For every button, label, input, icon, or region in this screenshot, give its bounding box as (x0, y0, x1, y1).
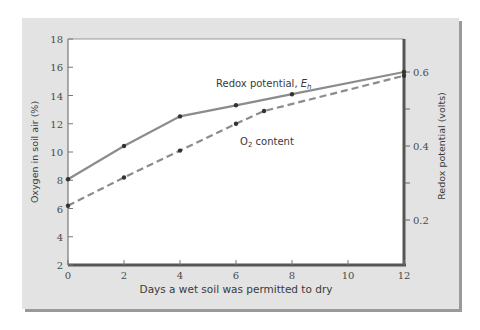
data-point (178, 148, 182, 152)
data-point (262, 109, 266, 113)
y-axis-right-title: Redox potential (volts) (436, 92, 447, 200)
y-tick-label: 18 (50, 34, 63, 45)
data-point (122, 144, 126, 148)
x-tick-label: 4 (177, 270, 183, 281)
x-tick-label: 2 (121, 270, 127, 281)
y-axis-title: Oxygen in soil air (%) (29, 101, 40, 203)
x-axis-title: Days a wet soil was permitted to dry (140, 283, 333, 295)
data-point (66, 177, 70, 181)
y-tick-label: 6 (57, 204, 63, 215)
plot-area (68, 39, 404, 265)
y-right-tick-label: 0.4 (413, 141, 429, 152)
y-tick-label: 10 (50, 147, 63, 158)
y-tick-label: 16 (50, 62, 63, 73)
data-point (178, 114, 182, 118)
data-point (234, 122, 238, 126)
y-tick-label: 12 (50, 119, 63, 130)
data-point (66, 203, 70, 207)
data-point (122, 175, 126, 179)
data-point (402, 74, 406, 78)
y-tick-label: 14 (50, 91, 63, 102)
y-right-tick-label: 0.6 (413, 67, 429, 78)
x-tick-label: 6 (233, 270, 239, 281)
x-tick-label: 12 (398, 270, 411, 281)
y-tick-label: 8 (57, 175, 63, 186)
x-tick-label: 0 (65, 270, 71, 281)
x-tick-label: 10 (342, 270, 355, 281)
y-right-tick-label: 0.2 (413, 215, 429, 226)
chart: 246810121416180246810120.20.40.6 Redox p… (0, 0, 480, 330)
x-tick-label: 8 (289, 270, 295, 281)
y-tick-label: 4 (57, 232, 63, 243)
data-point (234, 103, 238, 107)
y-tick-label: 2 (57, 260, 63, 271)
data-point (290, 92, 294, 96)
